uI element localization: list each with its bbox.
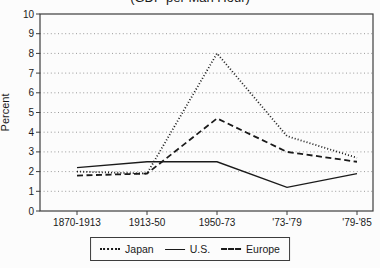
- legend-label-japan: Japan: [125, 243, 154, 255]
- svg-text:4: 4: [28, 127, 34, 138]
- chart-plot-area: 0123456789101870-19131913-501950-73'73-'…: [0, 0, 380, 268]
- svg-text:1950-73: 1950-73: [199, 217, 236, 228]
- productivity-growth-chart: (GDP per Man Hour) 0123456789101870-1913…: [0, 0, 380, 268]
- legend: Japan U.S. Europe: [90, 237, 290, 261]
- svg-text:6: 6: [28, 87, 34, 98]
- legend-label-us: U.S.: [190, 243, 210, 255]
- svg-text:1913-50: 1913-50: [129, 217, 166, 228]
- series-line-europe: [77, 118, 357, 175]
- y-axis: 012345678910: [23, 9, 40, 217]
- legend-item-europe: Europe: [221, 243, 280, 255]
- series-line-japan: [77, 53, 357, 173]
- svg-text:10: 10: [23, 9, 35, 20]
- svg-text:5: 5: [28, 107, 34, 118]
- legend-item-japan: Japan: [100, 243, 154, 255]
- svg-text:8: 8: [28, 48, 34, 59]
- europe-dashed-line-sample: [221, 248, 241, 250]
- svg-text:9: 9: [28, 28, 34, 39]
- svg-text:3: 3: [28, 146, 34, 157]
- x-axis: 1870-19131913-501950-73'73-'79'79-'85: [53, 211, 372, 228]
- svg-text:7: 7: [28, 68, 34, 79]
- us-solid-line-sample: [165, 249, 185, 250]
- gridlines: [40, 34, 373, 192]
- svg-text:1: 1: [28, 186, 34, 197]
- y-axis-title: Percent: [0, 94, 11, 132]
- svg-text:'73-'79: '73-'79: [272, 217, 302, 228]
- legend-label-europe: Europe: [246, 243, 280, 255]
- japan-dotted-line-sample: [100, 248, 120, 250]
- legend-item-us: U.S.: [165, 243, 210, 255]
- svg-text:'79-'85: '79-'85: [342, 217, 372, 228]
- svg-text:2: 2: [28, 166, 34, 177]
- svg-text:0: 0: [28, 206, 34, 217]
- svg-text:1870-1913: 1870-1913: [53, 217, 101, 228]
